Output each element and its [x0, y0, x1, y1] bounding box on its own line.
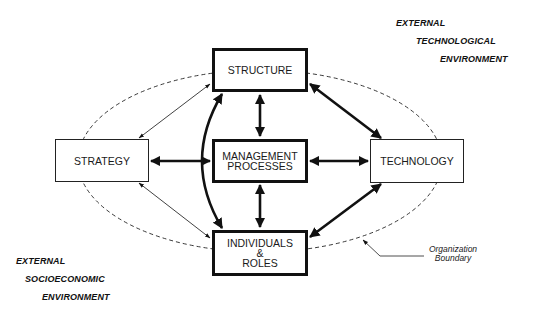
individuals-roles-box: INDIVIDUALS & ROLES: [212, 230, 308, 276]
external-socioeconomic-line3: ENVIRONMENT: [42, 292, 110, 302]
strategy-label: STRATEGY: [74, 156, 130, 166]
external-technological-line3: ENVIRONMENT: [440, 54, 508, 64]
boundary-callout-leader: [363, 240, 424, 256]
arrow-technology-individuals: [310, 184, 381, 237]
management-processes-label-line2: PROCESSES: [227, 161, 292, 171]
arrow-structure-technology: [310, 84, 381, 138]
strategy-box: STRATEGY: [55, 139, 149, 182]
technology-box: TECHNOLOGY: [370, 139, 464, 183]
arrow-strategy-structure: [139, 84, 210, 138]
individuals-label-line3: ROLES: [242, 258, 278, 268]
external-socioeconomic-line2: SOCIOECONOMIC: [25, 274, 105, 284]
organization-boundary-line2: Boundary: [423, 254, 483, 263]
external-technological-line1: EXTERNAL: [396, 18, 445, 28]
technology-label: TECHNOLOGY: [380, 156, 454, 166]
external-socioeconomic-line1: EXTERNAL: [16, 256, 65, 266]
structure-box: STRUCTURE: [212, 48, 308, 92]
organization-boundary-label: Organization Boundary: [423, 245, 483, 263]
external-technological-line2: TECHNOLOGICAL: [416, 36, 496, 46]
management-processes-box: MANAGEMENT PROCESSES: [212, 139, 308, 183]
structure-label: STRUCTURE: [228, 65, 293, 75]
arrow-strategy-individuals: [139, 183, 210, 238]
